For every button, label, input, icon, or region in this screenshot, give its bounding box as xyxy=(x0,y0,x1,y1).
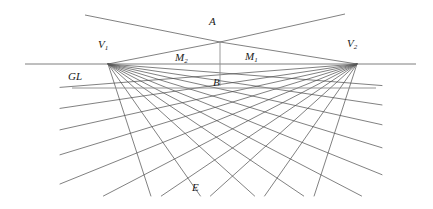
label-ground-line: GL xyxy=(68,71,82,82)
apex-upper-left-extension-line xyxy=(85,15,220,42)
perspective-ray xyxy=(210,64,357,196)
perspective-construction-svg xyxy=(0,0,433,209)
apex-upper-right-extension-line xyxy=(220,14,345,42)
perspective-diagram: V1 V2 A B M1 M2 GL E xyxy=(0,0,433,209)
perspective-ray xyxy=(60,64,357,130)
vanishing-point-1-ray-fan xyxy=(108,64,382,196)
perspective-ray xyxy=(60,64,357,87)
label-measuring-point-1: M1 xyxy=(245,51,258,62)
label-point-b: B xyxy=(213,77,220,88)
label-point-e: E xyxy=(192,182,199,193)
label-vanishing-point-2: V2 xyxy=(347,38,357,49)
perspective-ray xyxy=(108,64,151,196)
label-point-a: A xyxy=(209,16,216,27)
perspective-ray xyxy=(265,64,357,196)
apex-to-vanishing-point-2-line xyxy=(220,42,357,64)
perspective-ray xyxy=(108,64,304,196)
perspective-ray xyxy=(60,64,357,184)
label-measuring-point-2: M2 xyxy=(175,52,188,63)
label-vanishing-point-1: V1 xyxy=(98,39,108,50)
apex-to-vanishing-point-1-line xyxy=(108,42,220,64)
perspective-ray xyxy=(161,64,357,196)
perspective-ray xyxy=(314,64,357,196)
vanishing-point-2-ray-fan xyxy=(60,64,357,196)
perspective-ray xyxy=(60,64,357,108)
perspective-ray xyxy=(108,64,200,196)
